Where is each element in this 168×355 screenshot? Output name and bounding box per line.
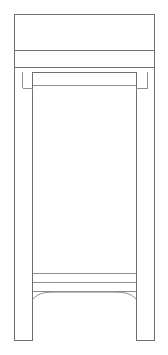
leg-left-group (15, 72, 33, 341)
top-slab-face (15, 15, 155, 51)
elevation-drawing-svg (0, 0, 168, 355)
drawing-canvas (0, 0, 168, 355)
apron-rail-face (15, 67, 155, 72)
top-lower-band-face (15, 50, 155, 67)
top-slab-group (15, 15, 155, 51)
leg-right-group (136, 72, 155, 341)
apron-rail-group (15, 67, 155, 72)
top-lower-band-group (15, 50, 155, 67)
leg-right-face (136, 72, 155, 341)
leg-left-face (15, 72, 33, 341)
